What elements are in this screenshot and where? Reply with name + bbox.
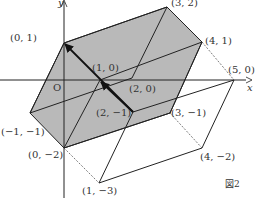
- point-label: (1, −3): [82, 186, 117, 196]
- point-label: (1, 0): [92, 63, 119, 73]
- origin-label: O: [53, 83, 61, 93]
- point-label: (4, −2): [200, 152, 235, 162]
- point-label: (4, 1): [205, 36, 232, 46]
- diagram: y x O (0, 1) (3, 2) (4, 1) (5, 0) (1, 0)…: [0, 0, 256, 198]
- x-axis-label: x: [247, 83, 253, 93]
- point-label: (−1, −1): [1, 127, 45, 137]
- diagram-canvas: [0, 0, 256, 198]
- point-label: (0, −2): [28, 150, 63, 160]
- point-label: (5, 0): [228, 65, 255, 75]
- point-label: (3, 2): [171, 0, 198, 8]
- shaded-region: [30, 7, 202, 148]
- point-label: (2, 0): [129, 84, 156, 94]
- point-label: (2, −1): [96, 108, 131, 118]
- point-label: (0, 1): [10, 33, 37, 43]
- figure-label: 図2: [225, 180, 240, 189]
- point-label: (3, −1): [171, 108, 206, 118]
- y-axis-label: y: [58, 0, 64, 8]
